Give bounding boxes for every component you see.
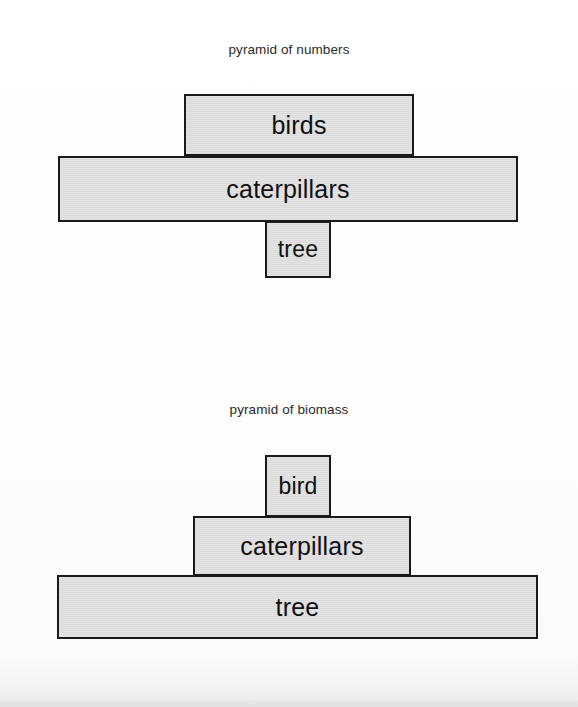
figure-title-pyramid-of-biomass: pyramid of biomass xyxy=(0,402,578,417)
figure-pyramid-of-biomass: pyramid of biomass bird caterpillars tre… xyxy=(0,360,578,707)
pyramid-tier-caterpillars: caterpillars xyxy=(58,156,518,222)
pyramid-tier-caterpillars: caterpillars xyxy=(193,516,411,576)
figure-title-pyramid-of-numbers: pyramid of numbers xyxy=(0,42,578,57)
figure-pyramid-of-numbers: pyramid of numbers birds caterpillars tr… xyxy=(0,0,578,340)
pyramid-tier-birds: birds xyxy=(184,94,414,156)
pyramid-tier-tree: tree xyxy=(57,575,538,639)
pyramid-tier-tree: tree xyxy=(265,221,331,278)
page-bottom-edge xyxy=(0,698,578,707)
pyramid-tier-bird: bird xyxy=(265,455,331,517)
